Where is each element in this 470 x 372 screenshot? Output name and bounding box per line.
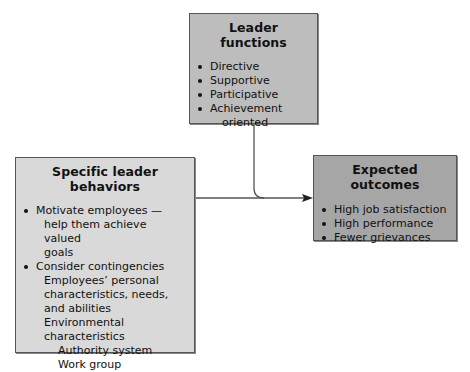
list-item: High performance <box>322 217 448 231</box>
sub-item: and abilities <box>24 302 186 316</box>
list-item: Participative <box>198 88 309 102</box>
bullet-icon <box>198 107 202 111</box>
sub-item: Environmental <box>24 316 186 330</box>
list-item: Consider contingencies <box>24 260 186 274</box>
bullet-icon <box>198 79 202 83</box>
list-item: High job satisfaction <box>322 203 448 217</box>
expected-outcomes-box: Expected outcomes High job satisfaction … <box>313 155 457 241</box>
bullet-icon <box>198 93 202 97</box>
sub-sub-item: Authority system <box>24 344 186 358</box>
list-item-continuation: help them achieve valued <box>24 218 186 246</box>
list-item: Fewer grievances <box>322 231 448 245</box>
leader-functions-title: Leader functions <box>198 20 309 50</box>
list-item: Motivate employees — <box>24 204 186 218</box>
bullet-icon <box>198 65 202 69</box>
list-item-continuation: goals <box>24 246 186 260</box>
sub-item: characteristics <box>24 330 186 344</box>
sub-item: characteristics, needs, <box>24 288 186 302</box>
bullet-icon <box>322 208 326 212</box>
sub-sub-item: Work group <box>24 358 186 372</box>
specific-behaviors-title: Specific leader behaviors <box>24 164 186 194</box>
bullet-icon <box>322 222 326 226</box>
bullet-icon <box>24 209 28 213</box>
list-item: Achievement <box>198 102 309 116</box>
list-item: Directive <box>198 60 309 74</box>
specific-behaviors-box: Specific leader behaviors Motivate emplo… <box>15 157 195 353</box>
sub-item: Employees’ personal <box>24 274 186 288</box>
bullet-icon <box>24 265 28 269</box>
list-item-continuation: oriented <box>198 116 309 130</box>
bullet-icon <box>322 236 326 240</box>
leader-functions-box: Leader functions Directive Supportive Pa… <box>189 13 318 124</box>
list-item: Supportive <box>198 74 309 88</box>
expected-outcomes-title: Expected outcomes <box>322 162 448 192</box>
